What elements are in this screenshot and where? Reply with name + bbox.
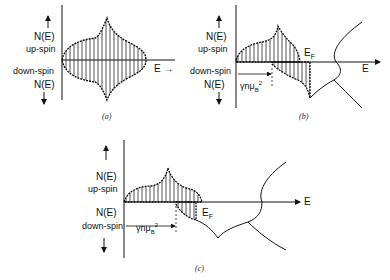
a-down-n-label: N(E) xyxy=(34,80,55,90)
b-energy-label: E xyxy=(362,64,369,74)
c-fermi-label: EF xyxy=(202,208,213,222)
c-shift-label: γnμB2 xyxy=(136,220,158,237)
c-up-spin-label: up-spin xyxy=(88,184,118,194)
b-down-spin-label: down-spin xyxy=(190,66,231,76)
b-up-spin-label: up-spin xyxy=(198,44,228,54)
c-up-n-label: N(E) xyxy=(96,172,117,182)
a-up-n-label: N(E) xyxy=(34,32,55,42)
b-fermi-label: EF xyxy=(304,48,315,62)
c-down-spin-label: down-spin xyxy=(82,221,123,231)
panel-c xyxy=(124,140,300,258)
b-down-n-label: N(E) xyxy=(204,80,225,90)
a-energy-label: E → xyxy=(154,64,173,74)
b-caption: (b) xyxy=(299,112,308,121)
c-down-n-label: N(E) xyxy=(96,208,117,218)
b-shift-label: γnμB2 xyxy=(240,78,262,95)
a-down-spin-label: down-spin xyxy=(13,66,54,76)
c-energy-label: E xyxy=(304,197,311,207)
a-caption: (a) xyxy=(102,112,111,121)
b-up-n-label: N(E) xyxy=(206,32,227,42)
c-caption: (c) xyxy=(195,264,204,273)
a-up-spin-label: up-spin xyxy=(26,44,56,54)
panel-a xyxy=(62,5,175,100)
dos-diagram xyxy=(0,0,390,280)
